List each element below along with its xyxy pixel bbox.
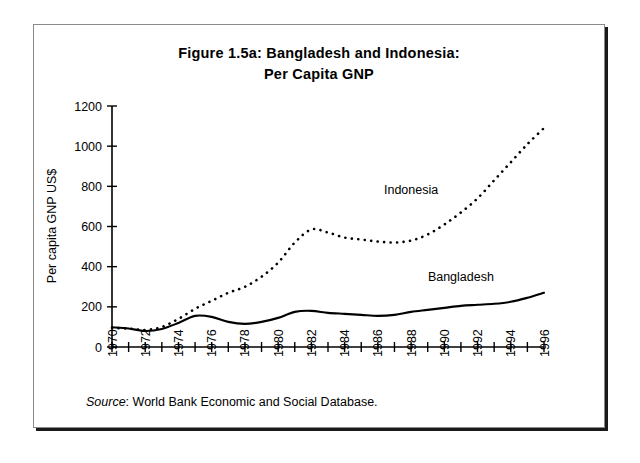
axes-group: [112, 106, 544, 347]
series-line-bangladesh: [112, 293, 544, 331]
y-tick-label-group: 020040060080010001200: [74, 100, 102, 355]
x-tick-label: 1988: [405, 329, 419, 357]
source-text: : World Bank Economic and Social Databas…: [126, 395, 378, 409]
y-axis-title: Per capita GNP US$: [45, 169, 59, 283]
y-tick-label: 800: [81, 180, 102, 194]
x-tick-label: 1970: [106, 329, 120, 357]
y-tick-label: 600: [81, 220, 102, 234]
x-tick-label: 1982: [305, 329, 319, 357]
source-note: Source: World Bank Economic and Social D…: [86, 395, 378, 409]
figure-frame: Figure 1.5a: Bangladesh and Indonesia: P…: [33, 24, 605, 428]
x-tick-label: 1984: [338, 329, 352, 357]
plot-area: 020040060080010001200 197019721974197619…: [34, 25, 606, 429]
x-tick-label: 1994: [504, 329, 518, 357]
chart-svg: 020040060080010001200 197019721974197619…: [34, 25, 606, 429]
y-tick-label: 200: [81, 300, 102, 314]
x-tick-label: 1990: [438, 329, 452, 357]
y-tick-label: 400: [81, 260, 102, 274]
x-tick-label: 1978: [238, 329, 252, 357]
series-annotation-group: Indonesia Bangladesh: [384, 183, 494, 283]
y-tick-label: 1200: [74, 100, 102, 114]
x-tick-label: 1996: [538, 329, 552, 357]
series-label-bangladesh: Bangladesh: [428, 270, 494, 284]
x-tick-label: 1980: [272, 329, 286, 357]
y-tick-label: 1000: [74, 140, 102, 154]
series-label-indonesia: Indonesia: [384, 183, 438, 197]
source-label: Source: [86, 395, 126, 409]
x-tick-label: 1986: [371, 329, 385, 357]
x-tick-label: 1972: [139, 329, 153, 357]
series-group: [112, 128, 544, 331]
x-tick-label: 1976: [205, 329, 219, 357]
x-tick-label: 1974: [172, 329, 186, 357]
series-line-indonesia: [112, 128, 544, 330]
y-tick-label: 0: [95, 341, 102, 355]
x-tick-label: 1992: [471, 329, 485, 357]
